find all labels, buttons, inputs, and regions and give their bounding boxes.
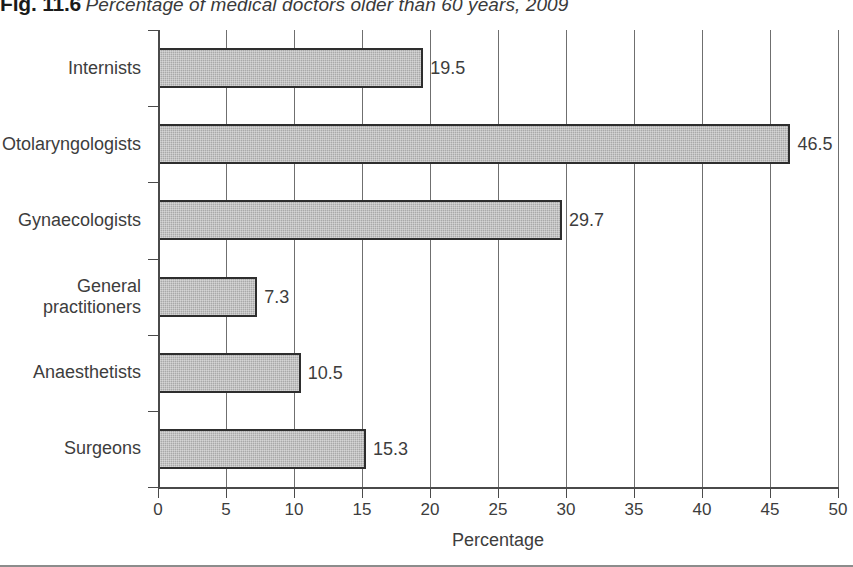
x-axis-tick-label: 10 bbox=[285, 500, 304, 520]
x-axis-line bbox=[158, 487, 839, 489]
x-axis-tick bbox=[498, 489, 499, 498]
gridline bbox=[634, 30, 635, 487]
gridline bbox=[430, 30, 431, 487]
x-axis-tick-label: 15 bbox=[353, 500, 372, 520]
bar bbox=[158, 48, 423, 88]
gridline bbox=[566, 30, 567, 487]
bar-value-label: 10.5 bbox=[308, 362, 343, 383]
bar bbox=[158, 277, 257, 317]
bar bbox=[158, 200, 562, 240]
category-label: General practitioners bbox=[0, 276, 141, 318]
x-axis-tick bbox=[702, 489, 703, 498]
x-axis-tick bbox=[158, 489, 159, 498]
gridline bbox=[362, 30, 363, 487]
x-axis-tick-label: 35 bbox=[625, 500, 644, 520]
y-axis-tick bbox=[148, 335, 158, 336]
bar bbox=[158, 124, 790, 164]
x-axis-tick-label: 50 bbox=[829, 500, 848, 520]
x-axis-tick bbox=[838, 489, 839, 498]
category-label: Surgeons bbox=[0, 438, 141, 459]
x-axis-tick-label: 20 bbox=[421, 500, 440, 520]
bar-value-label: 7.3 bbox=[264, 286, 289, 307]
x-axis-tick-label: 30 bbox=[557, 500, 576, 520]
x-axis-tick bbox=[226, 489, 227, 498]
category-label: Otolaryngologists bbox=[0, 134, 141, 155]
x-axis-tick bbox=[430, 489, 431, 498]
x-axis-tick bbox=[770, 489, 771, 498]
x-axis-title: Percentage bbox=[158, 530, 838, 551]
bar-value-label: 19.5 bbox=[430, 58, 465, 79]
y-axis-tick bbox=[148, 487, 158, 488]
x-axis-tick bbox=[362, 489, 363, 498]
x-axis-tick bbox=[634, 489, 635, 498]
y-axis-line bbox=[158, 30, 160, 487]
gridline bbox=[226, 30, 227, 487]
bar-value-label: 46.5 bbox=[797, 134, 832, 155]
category-label: Gynaecologists bbox=[0, 210, 141, 231]
x-axis-tick-label: 25 bbox=[489, 500, 508, 520]
gridline bbox=[498, 30, 499, 487]
x-axis-tick-label: 0 bbox=[153, 500, 162, 520]
bar-value-label: 15.3 bbox=[373, 438, 408, 459]
gridline bbox=[702, 30, 703, 487]
bar bbox=[158, 353, 301, 393]
gridline bbox=[294, 30, 295, 487]
x-axis-tick bbox=[566, 489, 567, 498]
y-axis-tick bbox=[148, 30, 158, 31]
y-axis-tick bbox=[148, 182, 158, 183]
x-axis-tick-label: 40 bbox=[693, 500, 712, 520]
x-axis-tick-label: 45 bbox=[761, 500, 780, 520]
category-label: Internists bbox=[0, 58, 141, 79]
y-axis-tick bbox=[148, 259, 158, 260]
x-axis-tick-label: 5 bbox=[221, 500, 230, 520]
category-label: Anaesthetists bbox=[0, 362, 141, 383]
bar bbox=[158, 429, 366, 469]
x-axis-tick bbox=[294, 489, 295, 498]
bar-value-label: 29.7 bbox=[569, 210, 604, 231]
gridline bbox=[770, 30, 771, 487]
y-axis-tick bbox=[148, 106, 158, 107]
gridline bbox=[838, 30, 839, 487]
bar-chart: 19.546.529.77.310.515.3 InternistsOtolar… bbox=[0, 0, 853, 567]
y-axis-tick bbox=[148, 411, 158, 412]
